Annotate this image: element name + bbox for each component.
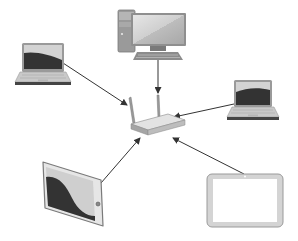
wireless-router-icon: [129, 95, 185, 135]
edge-laptop-right-to-router: [174, 104, 234, 117]
desktop-computer-icon: [118, 10, 186, 60]
edge-tablet-right-to-router: [173, 138, 244, 174]
edge-tablet-left-to-router: [101, 138, 140, 183]
laptop-right-icon: [227, 80, 279, 120]
tablet-left-icon: [43, 162, 103, 226]
network-diagram: Wireless network devices connecting to a…: [0, 0, 298, 241]
laptop-left-icon: [15, 43, 71, 85]
tablet-right-icon: [207, 174, 283, 227]
edge-laptop-left-to-router: [63, 63, 127, 105]
